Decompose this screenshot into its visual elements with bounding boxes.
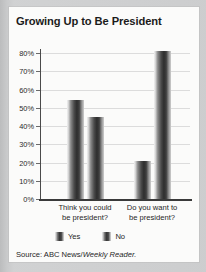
bar-group xyxy=(40,53,190,199)
legend-item-yes: Yes xyxy=(55,232,80,241)
bar-swatch-icon xyxy=(102,232,111,241)
legend-item-no: No xyxy=(102,232,125,241)
y-axis-line xyxy=(40,49,41,199)
category-label-line2: be president? xyxy=(47,213,123,223)
chart-card: Growing Up to Be President 0%10%20%30%40… xyxy=(9,7,199,262)
legend-label-no: No xyxy=(115,232,125,241)
y-axis-tick-label: 10% xyxy=(19,176,34,185)
source-prefix: Source: ABC News/ xyxy=(16,250,83,259)
category-label-line1: Think you could xyxy=(47,203,123,213)
scanned-page-background: Growing Up to Be President 0%10%20%30%40… xyxy=(0,0,206,272)
bar-swatch-icon xyxy=(55,232,64,241)
bar-yes-2 xyxy=(134,161,151,199)
plot-area: 0%10%20%30%40%50%60%70%80% xyxy=(40,53,190,199)
chart-legend: Yes No xyxy=(55,232,125,241)
y-axis-tick-label: 30% xyxy=(19,140,34,149)
category-label-line2: be president? xyxy=(114,213,190,223)
y-axis-tick-label: 80% xyxy=(19,49,34,58)
y-axis-tick-label: 40% xyxy=(19,122,34,131)
bar-no-2 xyxy=(154,51,171,199)
category-label-line1: Do you want to xyxy=(114,203,190,213)
category-label-1: Think you couldbe president? xyxy=(47,203,123,223)
y-axis-tick-label: 20% xyxy=(19,158,34,167)
chart-title: Growing Up to Be President xyxy=(16,15,162,27)
plot-inner: 0%10%20%30%40%50%60%70%80% xyxy=(40,53,190,199)
category-label-2: Do you want tobe president? xyxy=(114,203,190,223)
y-axis-tick-label: 50% xyxy=(19,103,34,112)
source-note: Source: ABC News/Weekly Reader. xyxy=(16,250,136,259)
y-axis-tick-label: 0% xyxy=(23,195,34,204)
y-axis-tick-label: 60% xyxy=(19,85,34,94)
category-labels: Think you couldbe president?Do you want … xyxy=(40,203,192,229)
source-publication: Weekly Reader. xyxy=(83,250,137,259)
legend-label-yes: Yes xyxy=(68,232,80,241)
x-axis-line xyxy=(39,199,192,201)
y-axis-tick-label: 70% xyxy=(19,67,34,76)
